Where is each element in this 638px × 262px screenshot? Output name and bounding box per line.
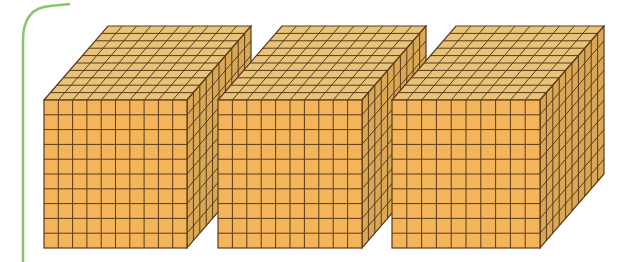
thousand-cubes-figure [0,0,638,262]
cube-group [44,26,604,248]
